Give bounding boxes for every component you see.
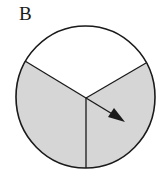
spinner-diagram — [0, 0, 161, 177]
